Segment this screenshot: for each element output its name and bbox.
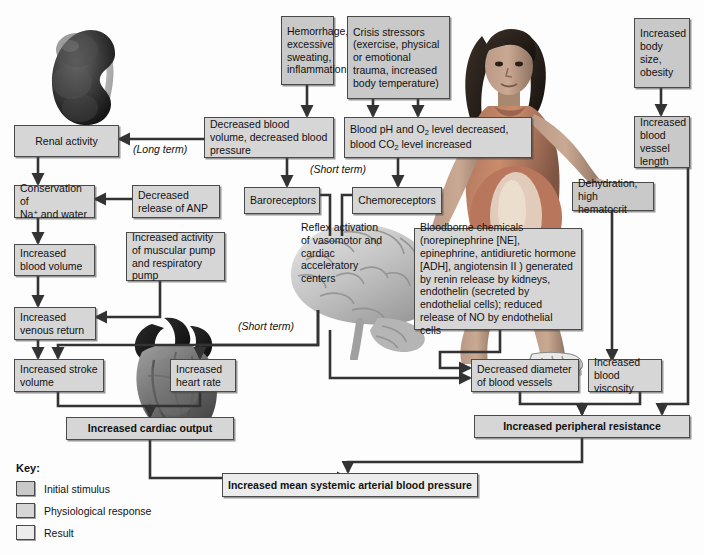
box-decreased-diameter[interactable]: Decreased diameter of blood vessels [471, 359, 579, 392]
box-baroreceptors[interactable]: Baroreceptors [244, 187, 320, 214]
box-crisis-stressors-label: Crisis stressors (exercise, physical or … [353, 26, 444, 90]
box-decreased-anp[interactable]: Decreased release of ANP [132, 185, 220, 218]
box-increased-viscosity[interactable]: Increased blood viscosity [588, 359, 662, 392]
box-increased-heart-rate[interactable]: Increased heart rate [170, 359, 236, 392]
legend-title: Key: [16, 462, 151, 474]
box-increased-vessel-length[interactable]: Increased blood vessel length [634, 116, 690, 168]
box-decreased-diameter-label: Decreased diameter of blood vessels [477, 363, 573, 389]
box-increased-blood-volume-label: Increased blood volume [20, 247, 89, 273]
flowchart-canvas: Hemorrhage, excessive sweating, inflamma… [0, 0, 704, 555]
legend-item-physiological-response: Physiological response [16, 503, 151, 518]
box-conservation-na-water[interactable]: Conservation ofNa+ and water [14, 185, 95, 218]
box-increased-venous-return[interactable]: Increased venous return [14, 307, 96, 340]
box-reflex-activation[interactable]: Reflex activation of vasomotor and cardi… [296, 228, 394, 278]
box-blood-ph-label: Blood pH and O2 level decreased,blood CO… [350, 123, 526, 151]
box-chemoreceptors-label: Chemoreceptors [358, 194, 436, 207]
box-bloodborne-chemicals-label: Bloodborne chemicals (norepinephrine [NE… [420, 221, 576, 336]
box-baroreceptors-label: Baroreceptors [250, 194, 314, 207]
box-increased-heart-rate-label: Increased heart rate [176, 363, 230, 389]
label-short-term-lower: (Short term) [238, 320, 294, 332]
label-short-term-upper: (Short term) [310, 163, 366, 175]
legend-label-physiological-response: Physiological response [44, 505, 151, 517]
box-increased-stroke-volume[interactable]: Increased stroke volume [14, 359, 104, 392]
box-hemorrhage[interactable]: Hemorrhage, excessive sweating, inflamma… [281, 16, 334, 85]
box-increased-body-size[interactable]: Increased body size, obesity [634, 18, 690, 88]
legend-item-initial-stimulus: Initial stimulus [16, 481, 151, 496]
box-chemoreceptors[interactable]: Chemoreceptors [352, 187, 442, 214]
box-blood-ph-o2-co2[interactable]: Blood pH and O2 level decreased,blood CO… [344, 117, 532, 158]
box-increased-map[interactable]: Increased mean systemic arterial blood p… [222, 473, 478, 497]
legend-item-result: Result [16, 525, 151, 540]
box-renal-activity-label: Renal activity [20, 135, 113, 148]
legend: Key: Initial stimulus Physiological resp… [16, 462, 151, 547]
box-increased-vessel-length-label: Increased blood vessel length [640, 116, 684, 167]
box-crisis-stressors[interactable]: Crisis stressors (exercise, physical or … [347, 16, 450, 99]
legend-swatch-result [16, 525, 35, 540]
box-increased-map-label: Increased mean systemic arterial blood p… [228, 479, 472, 492]
box-renal-activity[interactable]: Renal activity [14, 125, 119, 157]
box-increased-body-size-label: Increased body size, obesity [640, 27, 684, 78]
box-decreased-blood-volume-label: Decreased blood volume, decreased blood … [210, 118, 328, 156]
box-dehydration[interactable]: Dehydration, high hematocrit [572, 182, 654, 211]
box-dehydration-label: Dehydration, high hematocrit [578, 177, 648, 215]
label-long-term: (Long term) [133, 143, 187, 155]
box-decreased-blood-volume[interactable]: Decreased blood volume, decreased blood … [204, 117, 334, 158]
box-increased-cardiac-output-label: Increased cardiac output [72, 422, 228, 435]
box-increased-stroke-volume-label: Increased stroke volume [20, 363, 98, 389]
box-conservation-label: Conservation ofNa+ and water [20, 182, 89, 220]
legend-swatch-initial-stimulus [16, 481, 35, 496]
box-bloodborne-chemicals[interactable]: Bloodborne chemicals (norepinephrine [NE… [414, 228, 582, 330]
box-increased-muscular-pump[interactable]: Increased activity of muscular pump and … [126, 232, 225, 281]
box-increased-peripheral-resistance-label: Increased peripheral resistance [480, 420, 684, 433]
box-increased-venous-return-label: Increased venous return [20, 311, 90, 337]
box-increased-muscular-pump-label: Increased activity of muscular pump and … [132, 231, 219, 282]
box-reflex-activation-label: Reflex activation of vasomotor and cardi… [301, 221, 389, 285]
box-decreased-anp-label: Decreased release of ANP [138, 189, 214, 215]
box-hemorrhage-label: Hemorrhage, excessive sweating, inflamma… [287, 25, 328, 76]
legend-label-initial-stimulus: Initial stimulus [44, 483, 110, 495]
legend-label-result: Result [44, 527, 74, 539]
box-increased-peripheral-resistance[interactable]: Increased peripheral resistance [474, 415, 690, 438]
legend-swatch-physiological-response [16, 503, 35, 518]
box-increased-blood-volume[interactable]: Increased blood volume [14, 244, 95, 276]
box-increased-cardiac-output[interactable]: Increased cardiac output [66, 417, 234, 440]
box-increased-viscosity-label: Increased blood viscosity [594, 356, 656, 394]
